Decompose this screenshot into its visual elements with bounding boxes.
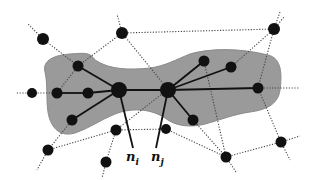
node-nj [160, 82, 176, 98]
label-n-j-subscript: j [160, 157, 163, 167]
node-g [83, 88, 94, 99]
node-k [199, 56, 210, 67]
node-c [268, 23, 280, 35]
node-s [101, 157, 112, 168]
node-d [27, 88, 37, 98]
node-h [67, 115, 78, 126]
node-b [116, 27, 128, 39]
node-t [221, 152, 232, 163]
label-n-i: ni [126, 150, 139, 167]
node-u [276, 137, 287, 148]
dotted-edge [116, 129, 166, 130]
dotted-edge [166, 129, 226, 157]
node-ni [111, 82, 127, 98]
node-l [226, 62, 237, 73]
dotted-edge [48, 130, 116, 150]
node-v [161, 124, 171, 134]
dotted-edge [122, 29, 274, 33]
node-o [253, 83, 264, 94]
node-a [37, 33, 49, 45]
node-p [43, 145, 54, 156]
node-m [188, 115, 199, 126]
label-n-i-subscript: i [135, 157, 138, 167]
label-n-j: nj [151, 150, 164, 167]
node-f [52, 88, 63, 99]
dotted-edge [226, 142, 281, 157]
node-q [111, 125, 122, 136]
node-e [73, 61, 84, 72]
